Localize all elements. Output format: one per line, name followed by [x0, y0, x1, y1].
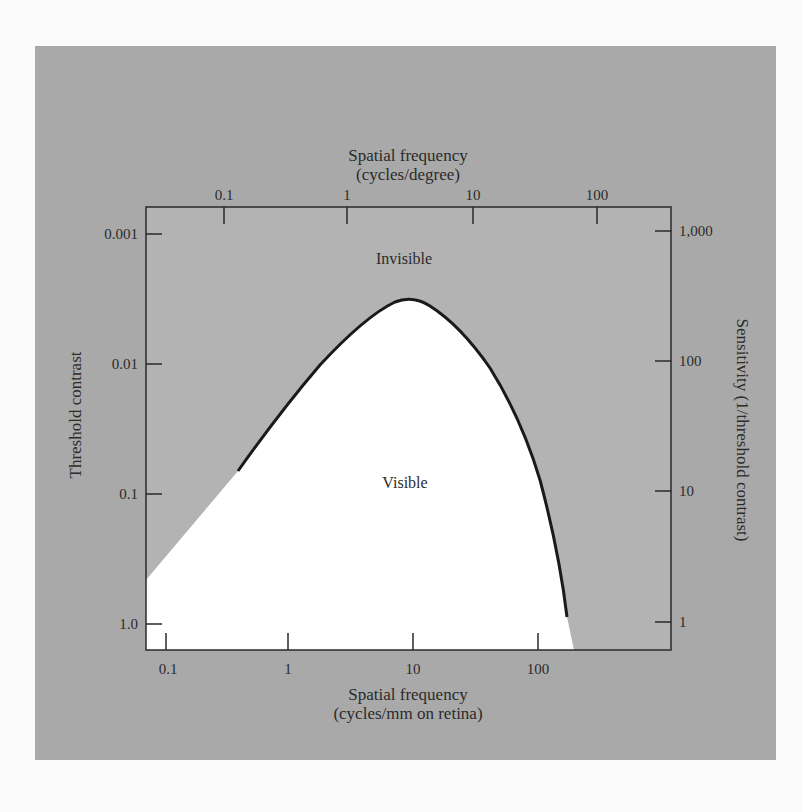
bottom-tick-label: 100: [527, 661, 550, 677]
left-axis-title: Threshold contrast: [66, 351, 85, 478]
top-tick-label: 10: [466, 187, 481, 203]
top-axis-title: Spatial frequency: [348, 146, 468, 165]
right-tick-label: 100: [679, 353, 702, 369]
top-tick-label: 0.1: [215, 187, 234, 203]
top-tick-label: 1: [343, 187, 351, 203]
bottom-axis-units: (cycles/mm on retina): [333, 704, 482, 723]
top-axis-units: (cycles/degree): [356, 165, 460, 184]
right-axis-title: Sensitivity (1/threshold contrast): [733, 319, 752, 542]
bottom-tick-label: 10: [406, 661, 421, 677]
left-tick-label: 1.0: [119, 616, 138, 632]
csf-chart: Spatial frequency (cycles/degree) 0.1 1 …: [0, 0, 803, 812]
bottom-tick-label: 1: [284, 661, 292, 677]
left-tick-label: 0.001: [104, 226, 138, 242]
top-tick-label: 100: [586, 187, 609, 203]
left-tick-label: 0.1: [119, 486, 138, 502]
bottom-axis-title: Spatial frequency: [348, 685, 468, 704]
bottom-tick-label: 0.1: [159, 661, 178, 677]
left-tick-label: 0.01: [112, 356, 138, 372]
right-tick-label: 1,000: [679, 223, 713, 239]
invisible-label: Invisible: [376, 250, 432, 267]
visible-label: Visible: [382, 474, 427, 491]
right-tick-label: 10: [679, 483, 694, 499]
right-tick-label: 1: [679, 614, 687, 630]
